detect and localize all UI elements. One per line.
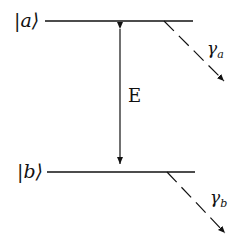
gamma-symbol: γ (207, 38, 217, 58)
lower-level-label: |b⟩ (17, 162, 43, 181)
gamma-subscript: a (217, 48, 224, 61)
lower-decay-label: γb (210, 189, 227, 209)
upper-level-label: |a⟩ (14, 11, 39, 30)
gamma-subscript: b (220, 197, 227, 210)
transition-label: E (128, 87, 141, 105)
upper-decay-label: γa (207, 40, 224, 60)
gamma-symbol: γ (210, 187, 220, 207)
